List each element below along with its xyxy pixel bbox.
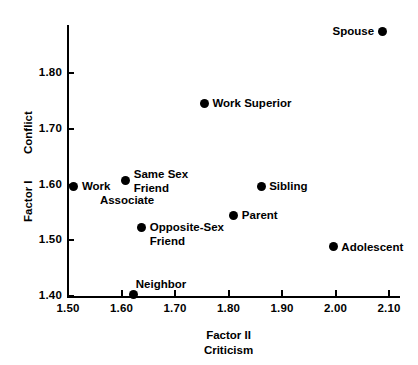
y-axis-tick <box>68 128 74 130</box>
data-point-label-line: Spouse <box>333 24 375 38</box>
data-point-label-line: Associate <box>100 193 154 207</box>
data-point-label: WorkAssociate <box>82 179 154 207</box>
data-point-label-line: Neighbor <box>136 277 186 291</box>
data-point-label-line: Parent <box>242 208 278 222</box>
y-axis-tick <box>68 295 74 297</box>
y-axis-tick <box>68 239 74 241</box>
data-point-marker <box>229 211 238 220</box>
x-axis-tick <box>281 290 283 296</box>
data-point-label-line: Sibling <box>269 179 307 193</box>
x-axis-tick <box>121 290 123 296</box>
y-axis-tick-label: 1.50 <box>22 233 62 245</box>
x-axis-line <box>67 296 400 298</box>
data-point-label: Spouse <box>333 24 375 38</box>
y-axis-title-factor-one: Factor I <box>22 180 34 222</box>
y-axis-tick <box>68 72 74 74</box>
y-axis-line <box>67 25 69 298</box>
x-axis-tick-label: 2.00 <box>314 302 358 314</box>
data-point-label: Work Superior <box>212 96 291 110</box>
data-point-label-line: Work <box>82 179 154 193</box>
data-point-marker <box>129 290 138 299</box>
x-axis-tick-label: 2.10 <box>367 302 411 314</box>
x-axis-tick-label: 1.80 <box>207 302 251 314</box>
data-point-marker <box>200 99 209 108</box>
y-axis-tick-label: 1.40 <box>22 289 62 301</box>
data-point-marker <box>257 182 266 191</box>
x-axis-title-line: Factor II <box>149 328 309 343</box>
data-point-marker <box>329 242 338 251</box>
x-axis-tick <box>388 290 390 296</box>
x-axis-tick <box>174 290 176 296</box>
x-axis-tick-label: 1.60 <box>100 302 144 314</box>
scatter-chart: 1.501.601.701.801.902.002.10 1.401.501.6… <box>0 0 418 365</box>
x-axis-tick-label: 1.90 <box>260 302 304 314</box>
data-point-label: Parent <box>242 208 278 222</box>
data-point-label-line: Friend <box>150 234 224 248</box>
y-axis-tick-label: 1.80 <box>22 66 62 78</box>
x-axis-tick-label: 1.70 <box>153 302 197 314</box>
data-point-label-line: Adolescent <box>341 240 403 254</box>
data-point-label: Adolescent <box>341 240 403 254</box>
x-axis-tick <box>335 290 337 296</box>
y-axis-title-conflict: Conflict <box>22 111 34 154</box>
data-point-label-line: Opposite-Sex <box>150 220 224 234</box>
x-axis-tick <box>228 290 230 296</box>
x-axis-tick-label: 1.50 <box>46 302 90 314</box>
data-point-marker <box>378 27 387 36</box>
data-point-label: Neighbor <box>136 277 186 291</box>
data-point-label-line: Work Superior <box>212 96 291 110</box>
x-axis-title-line: Criticism <box>149 343 309 358</box>
data-point-marker <box>137 223 146 232</box>
data-point-label: Sibling <box>269 179 307 193</box>
data-point-marker <box>69 182 78 191</box>
data-point-label: Opposite-SexFriend <box>150 220 224 248</box>
x-axis-title: Factor IICriticism <box>149 328 309 358</box>
